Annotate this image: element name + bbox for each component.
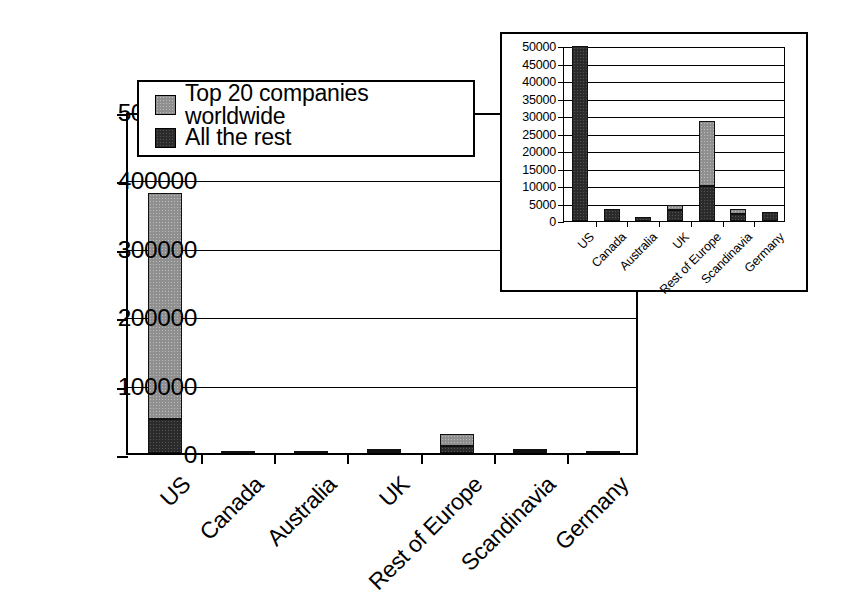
inset-gridline — [564, 82, 784, 83]
inset-bar-segment-rest — [762, 212, 778, 221]
inset-y-tick-label: 10000 — [522, 180, 556, 194]
inset-bar-segment-rest — [699, 186, 715, 221]
inset-plot-area: 0500010000150002000025000300003500040000… — [563, 47, 785, 222]
inset-x-tick-label: UK — [670, 230, 692, 252]
inset-x-tick — [627, 221, 628, 227]
main-x-tick-label: Canada — [194, 471, 269, 546]
inset-y-tick-label: 30000 — [522, 110, 556, 124]
inset-bar-segment-rest — [635, 217, 651, 221]
inset-x-tick-label: US — [575, 230, 597, 252]
main-bar-segment-rest — [367, 451, 401, 453]
main-bar-segment-rest — [294, 451, 328, 453]
legend: Top 20 companies worldwide All the rest — [137, 80, 475, 157]
inset-bar-australia — [635, 217, 651, 221]
legend-item-top20: Top 20 companies worldwide — [155, 88, 473, 121]
inset-bar-segment-rest — [730, 214, 746, 221]
main-x-tick-label: Germany — [550, 471, 634, 555]
main-y-tick-label: 0 — [184, 441, 197, 469]
inset-bar-segment-rest — [604, 209, 620, 221]
main-y-tick-label: 400000 — [118, 167, 197, 195]
inset-gridline — [564, 152, 784, 153]
inset-x-tick — [723, 221, 724, 227]
inset-plot-top-border — [564, 47, 784, 48]
legend-swatch-rest-icon — [155, 128, 176, 148]
inset-bar-segment-rest — [572, 46, 588, 221]
figure-chart-stacked-bars: 0100000200000300000400000500000 USCanada… — [0, 0, 851, 598]
main-x-tick-label: UK — [374, 471, 415, 512]
inset-gridline — [564, 100, 784, 101]
inset-y-tick-label: 45000 — [522, 58, 556, 72]
main-x-tick-label: US — [154, 471, 195, 512]
inset-bar-germany — [762, 212, 778, 221]
inset-bar-us — [572, 46, 588, 221]
inset-x-tick — [754, 221, 755, 227]
main-bar-segment-rest — [221, 451, 255, 453]
inset-x-tick — [659, 221, 660, 227]
main-x-tick — [421, 453, 423, 464]
legend-label-top20: Top 20 companies worldwide — [185, 82, 473, 128]
inset-gridline — [564, 135, 784, 136]
main-y-tick-label: 300000 — [118, 236, 197, 264]
inset-bar-segment-top20 — [699, 121, 715, 186]
inset-y-tick-label: 25000 — [522, 128, 556, 142]
main-bar-segment-rest — [148, 419, 182, 453]
main-bar-segment-rest — [586, 451, 620, 453]
main-x-tick — [494, 453, 496, 464]
main-bar-australia — [294, 452, 328, 453]
main-bar-germany — [586, 451, 620, 453]
inset-bar-segment-rest — [667, 210, 683, 221]
inset-bar-canada — [604, 209, 620, 221]
inset-y-tick-label: 35000 — [522, 93, 556, 107]
inset-y-tick-label: 50000 — [522, 40, 556, 54]
main-bar-segment-rest — [513, 451, 547, 453]
main-bar-canada — [221, 451, 255, 453]
main-y-tick-label: 100000 — [118, 373, 197, 401]
inset-x-tick — [596, 221, 597, 227]
inset-gridline — [564, 65, 784, 66]
inset-gridline — [564, 187, 784, 188]
inset-gridline — [564, 117, 784, 118]
inset-bar-scandinavia — [730, 209, 746, 221]
main-x-tick — [567, 453, 569, 464]
inset-y-tick-label: 40000 — [522, 75, 556, 89]
main-bar-uk — [367, 449, 401, 453]
legend-label-rest: All the rest — [185, 126, 291, 149]
main-x-tick — [201, 453, 203, 464]
legend-swatch-top20-icon — [155, 95, 176, 115]
inset-y-tick-label: 20000 — [522, 145, 556, 159]
inset-y-tick-label: 5000 — [529, 198, 556, 212]
main-bar-rest-of-europe — [440, 434, 474, 453]
main-x-tick — [347, 453, 349, 464]
main-bar-segment-rest — [440, 446, 474, 453]
main-x-tick-label: Australia — [261, 471, 341, 551]
inset-bar-rest-of-europe — [699, 121, 715, 221]
inset-y-tick-label: 0 — [549, 215, 556, 229]
inset-x-tick — [691, 221, 692, 227]
main-bar-segment-top20 — [440, 434, 474, 447]
main-x-tick — [274, 453, 276, 464]
main-bar-scandinavia — [513, 451, 547, 453]
inset-gridline — [564, 170, 784, 171]
inset-chart: 0500010000150002000025000300003500040000… — [500, 32, 808, 292]
inset-y-tick-label: 15000 — [522, 163, 556, 177]
main-y-tick-label: 200000 — [118, 304, 197, 332]
inset-bar-uk — [667, 205, 683, 221]
